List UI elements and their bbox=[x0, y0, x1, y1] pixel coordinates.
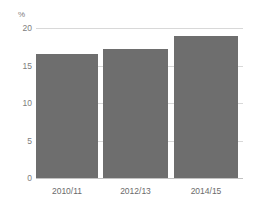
bar-2010-11 bbox=[36, 54, 98, 178]
x-tick-label-2012-13: 2012/13 bbox=[103, 186, 168, 196]
bar-2012-13 bbox=[103, 49, 168, 178]
y-axis: 20 15 10 5 0 bbox=[0, 0, 32, 205]
y-tick-label-0: 0 bbox=[8, 174, 32, 182]
bar-2014-15 bbox=[174, 36, 238, 179]
bar-chart: % 20 15 10 5 0 2010/11 2012/13 2014/15 bbox=[0, 0, 253, 205]
y-tick-label-5: 5 bbox=[8, 137, 32, 145]
y-tick-label-20: 20 bbox=[8, 24, 32, 32]
x-tick-label-2014-15: 2014/15 bbox=[174, 186, 238, 196]
gridline-0-baseline bbox=[36, 178, 243, 179]
y-tick-label-10: 10 bbox=[8, 99, 32, 107]
y-tick-label-15: 15 bbox=[8, 62, 32, 70]
plot-area bbox=[36, 28, 238, 178]
x-tick-label-2010-11: 2010/11 bbox=[36, 186, 98, 196]
